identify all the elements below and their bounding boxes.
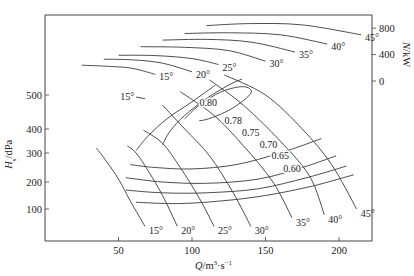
- pressure-curve-label: 40°: [328, 214, 342, 225]
- power-curves: [82, 23, 361, 74]
- efficiency-label: 0.80: [199, 97, 217, 108]
- power-curve-35°: [163, 39, 295, 52]
- power-curve-20°: [104, 59, 192, 72]
- pressure-curve-label: 45°: [361, 208, 375, 219]
- power-curve-15°: [82, 65, 156, 74]
- chart: 501001502001002003004005000400800Q/m3·s−…: [0, 0, 414, 276]
- pressure-curves: [96, 75, 356, 226]
- power-curve-label: 35°: [299, 49, 313, 60]
- x-axis-label: Q/m3·s−1: [195, 259, 233, 271]
- y-tick-label: 500: [26, 90, 42, 101]
- y-tick-label: 300: [26, 148, 42, 159]
- pressure-curve-25°: [144, 130, 215, 226]
- efficiency-curve-0.65: [126, 156, 336, 184]
- pressure-curve-45°: [224, 75, 356, 209]
- pressure-curve-label: 30°: [255, 225, 269, 236]
- envelope-15-leader: [136, 97, 145, 99]
- x-tick-label: 100: [184, 245, 200, 256]
- y-tick-label: 200: [26, 177, 42, 188]
- pressure-curve-15°: [96, 148, 145, 226]
- y-axis-label: Hs/dPa: [3, 139, 18, 169]
- x-tick-label: 200: [331, 245, 347, 256]
- pressure-curve-label: 15°: [149, 225, 163, 236]
- efficiency-label: 0.70: [260, 139, 278, 150]
- y-tick-label: 100: [26, 204, 42, 215]
- x-tick-label: 150: [258, 245, 274, 256]
- x-tick-label: 50: [113, 245, 124, 256]
- power-curve-label: 40°: [331, 41, 345, 52]
- power-curve-label: 30°: [270, 58, 284, 69]
- y-tick-label: 400: [26, 124, 42, 135]
- efficiency-curve-0.75: [136, 85, 215, 151]
- efficiency-curve-lower: [136, 175, 354, 204]
- axes: 501001502001002003004005000400800Q/m3·s−…: [3, 15, 412, 271]
- power-curve-label: 20°: [196, 69, 210, 80]
- y2-axis-label: N/kW: [401, 41, 412, 67]
- envelope-15-label: 15°: [120, 91, 134, 102]
- y2-tick-label: 400: [379, 49, 395, 60]
- pressure-curve-20°: [127, 146, 177, 227]
- power-curve-30°: [141, 47, 266, 62]
- efficiency-label: 0.75: [242, 127, 260, 138]
- y2-tick-label: 800: [379, 23, 395, 34]
- efficiency-label: 0.60: [283, 163, 301, 174]
- power-curve-label: 15°: [159, 71, 173, 82]
- y2-tick-label: 0: [379, 76, 384, 87]
- power-curve-label: 25°: [222, 62, 236, 73]
- power-curve-40°: [185, 33, 328, 44]
- pressure-curve-label: 20°: [181, 225, 195, 236]
- efficiency-label: 0.78: [224, 115, 242, 126]
- pressure-curve-label: 25°: [218, 225, 232, 236]
- pressure-curve-label: 35°: [296, 217, 310, 228]
- efficiency-label: 0.65: [271, 150, 289, 161]
- power-curve-label: 45°: [365, 32, 379, 43]
